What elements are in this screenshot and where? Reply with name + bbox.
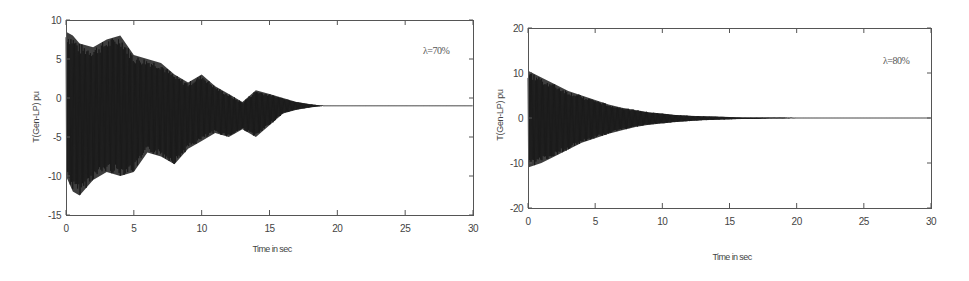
y-tick-label: -20 xyxy=(501,203,523,214)
x-tick-label: 25 xyxy=(859,216,869,227)
x-tick-label: 5 xyxy=(593,216,598,227)
axes-frame xyxy=(528,28,932,209)
x-tick-label: 30 xyxy=(926,216,936,227)
y-tick-label: 10 xyxy=(501,68,523,79)
x-tick-label: 20 xyxy=(792,216,802,227)
torque-chart-lambda-80: 20100-10-20 051015202530 T(Gen-LP) pu Ti… xyxy=(0,0,969,281)
x-tick-label: 0 xyxy=(525,216,530,227)
x-tick-label: 10 xyxy=(657,216,667,227)
x-tick-label: 15 xyxy=(724,216,734,227)
lambda-annotation: λ=80% xyxy=(883,55,909,66)
y-tick-label: 20 xyxy=(501,23,523,34)
x-axis-label: Time in sec xyxy=(712,252,751,262)
y-axis-label: T(Gen-LP) pu xyxy=(495,89,505,140)
y-tick-label: -10 xyxy=(501,158,523,169)
